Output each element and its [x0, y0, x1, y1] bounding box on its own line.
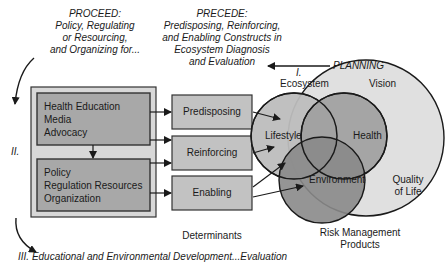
vision-label: Vision: [369, 78, 396, 90]
label-enabling: Enabling: [172, 187, 252, 199]
label-environment: Environment: [309, 174, 365, 186]
phase2-label: II.: [11, 146, 19, 158]
proceed-line: Policy, Regulating: [40, 20, 150, 32]
proceed-heading: PROCEED:: [40, 8, 150, 20]
precede-line: Ecosystem Diagnosis: [142, 44, 302, 56]
label-reinforcing: Reinforcing: [172, 147, 252, 159]
planning-label: PLANNING: [333, 60, 384, 72]
proceed-line: or Resourcing,: [40, 32, 150, 44]
intervention-item: Health Education: [44, 100, 120, 113]
determinants-caption: Determinants: [172, 230, 252, 242]
precede-line: and Enabling Constructs in: [142, 32, 302, 44]
label-predisposing: Predisposing: [172, 106, 252, 118]
proceed-block: PROCEED: Policy, Regulating or Resourcin…: [40, 8, 150, 56]
upper-box-text: Health Education Media Advocacy: [44, 100, 120, 139]
label-health: Health: [353, 130, 382, 142]
label-quality-of-life: Quality of Life: [383, 174, 433, 198]
lower-box-text: Policy Regulation Resources Organization: [44, 166, 142, 205]
proceed-line: and Organizing for...: [40, 44, 150, 56]
precede-block: PRECEDE: Predisposing, Reinforcing, and …: [142, 8, 302, 68]
precede-line: Predisposing, Reinforcing,: [142, 20, 302, 32]
intervention-item: Media: [44, 113, 120, 126]
risk-management-caption: Risk Management Products: [300, 227, 420, 251]
phase3-label: III. Educational and Environmental Devel…: [18, 251, 287, 263]
label-lifestyle: Lifestyle: [265, 130, 302, 142]
intervention-item: Organization: [44, 192, 142, 205]
precede-heading: PRECEDE:: [142, 8, 302, 20]
intervention-item: Advocacy: [44, 126, 120, 139]
ecosystem-label: Ecosystem: [280, 78, 329, 90]
intervention-item: Regulation Resources: [44, 179, 142, 192]
precede-line: and Evaluation: [142, 56, 302, 68]
intervention-item: Policy: [44, 166, 142, 179]
phase3-curve-arrow: [16, 218, 36, 252]
